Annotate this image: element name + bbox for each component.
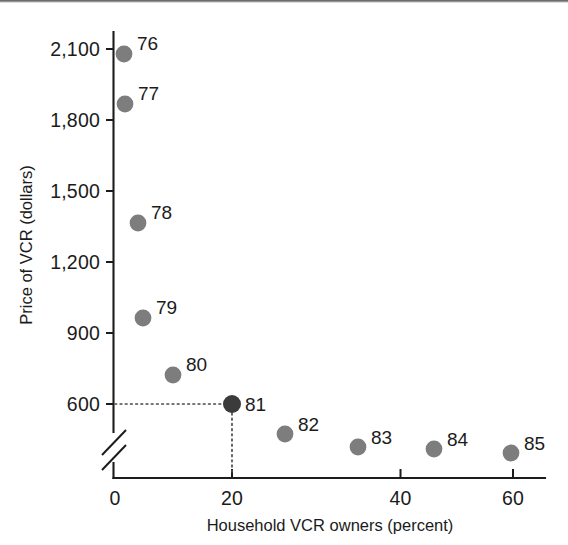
- data-point-83[interactable]: 83: [350, 427, 393, 455]
- data-point-78[interactable]: 78: [130, 202, 173, 231]
- x-tick-label-20: 20: [221, 487, 243, 509]
- x-tick-label-60: 60: [502, 487, 524, 509]
- data-point-80[interactable]: 80: [165, 354, 208, 383]
- data-point-77[interactable]: 77: [117, 83, 160, 112]
- x-axis-ticks: 0 20 40 60: [109, 469, 524, 509]
- point-label-78: 78: [151, 202, 172, 223]
- y-tick-label-900: 900: [67, 322, 100, 344]
- marker-84[interactable]: [426, 441, 443, 458]
- guide-lines-1981: [115, 404, 232, 474]
- data-points-group: 76 77 78 79 80 81: [116, 33, 546, 461]
- point-label-83: 83: [371, 427, 392, 448]
- data-point-85[interactable]: 85: [503, 433, 546, 461]
- point-label-84: 84: [447, 429, 469, 450]
- marker-81-highlighted[interactable]: [223, 395, 241, 413]
- marker-78[interactable]: [130, 215, 147, 232]
- point-label-77: 77: [138, 83, 159, 104]
- data-point-81[interactable]: 81: [223, 394, 266, 415]
- scan-edge-artifact: [0, 0, 568, 3]
- marker-79[interactable]: [135, 310, 152, 327]
- data-point-82[interactable]: 82: [277, 414, 320, 442]
- data-point-76[interactable]: 76: [116, 33, 159, 62]
- y-tick-label-2100: 2,100: [50, 38, 100, 60]
- x-tick-label-40: 40: [389, 487, 411, 509]
- y-axis-title: Price of VCR (dollars): [17, 165, 35, 325]
- vcr-price-scatter-figure: 2,100 1,800 1,500 1,200 900 600 0 20 40 …: [0, 0, 568, 545]
- point-label-80: 80: [186, 354, 207, 375]
- marker-82[interactable]: [277, 426, 294, 443]
- marker-85[interactable]: [503, 445, 520, 462]
- y-tick-label-1800: 1,800: [50, 109, 100, 131]
- data-point-84[interactable]: 84: [426, 429, 469, 457]
- marker-76[interactable]: [116, 46, 133, 63]
- point-label-82: 82: [298, 414, 319, 435]
- axes-group: [102, 32, 545, 478]
- x-axis-title: Household VCR owners (percent): [207, 516, 454, 534]
- y-axis-ticks: 2,100 1,800 1,500 1,200 900 600: [50, 38, 113, 415]
- point-label-79: 79: [156, 297, 177, 318]
- marker-83[interactable]: [350, 439, 367, 456]
- point-label-81: 81: [245, 394, 266, 415]
- chart-canvas: 2,100 1,800 1,500 1,200 900 600 0 20 40 …: [0, 0, 568, 545]
- y-tick-label-1200: 1,200: [50, 251, 100, 273]
- y-tick-label-1500: 1,500: [50, 180, 100, 202]
- marker-77[interactable]: [117, 96, 134, 113]
- point-label-85: 85: [524, 433, 545, 454]
- marker-80[interactable]: [165, 367, 182, 384]
- point-label-76: 76: [137, 33, 158, 54]
- x-tick-label-0: 0: [109, 487, 120, 509]
- data-point-79[interactable]: 79: [135, 297, 178, 326]
- y-tick-label-600: 600: [67, 393, 100, 415]
